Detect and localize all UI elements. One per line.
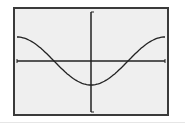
calculator-graph-card — [0, 0, 185, 123]
graph-screen — [13, 7, 169, 116]
graph-plot — [15, 9, 167, 114]
